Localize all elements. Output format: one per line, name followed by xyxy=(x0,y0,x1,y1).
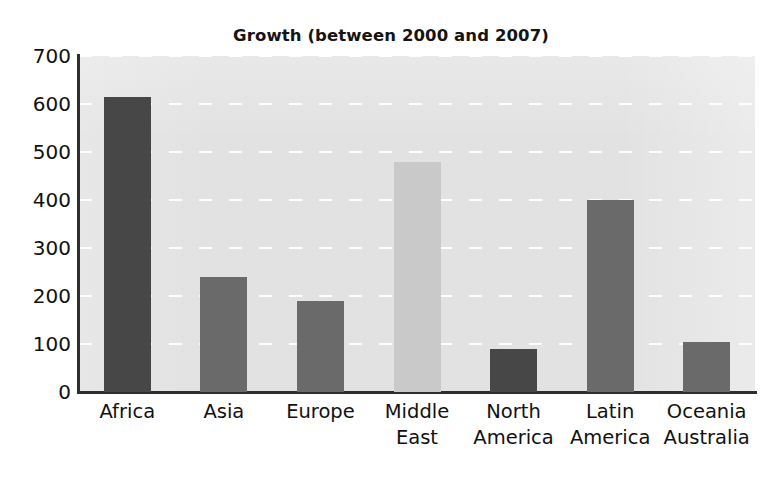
y-axis-tick-labels: 0100200300400500600700 xyxy=(0,56,71,392)
bar xyxy=(297,301,344,392)
bar xyxy=(200,277,247,392)
growth-bar-chart: Growth (between 2000 and 2007) 010020030… xyxy=(0,0,782,489)
bar xyxy=(394,162,441,392)
chart-title: Growth (between 2000 and 2007) xyxy=(0,26,782,45)
bar xyxy=(104,97,151,392)
y-axis-tick-label: 400 xyxy=(5,188,71,212)
y-axis-tick-label: 100 xyxy=(5,332,71,356)
y-axis-tick-label: 300 xyxy=(5,236,71,260)
y-axis-tick-label: 200 xyxy=(5,284,71,308)
bar xyxy=(683,342,730,392)
x-axis-category-labels: AfricaAsiaEuropeMiddle EastNorth America… xyxy=(79,399,755,479)
x-axis-category-label: Oceania Australia xyxy=(650,399,763,451)
y-axis-tick-label: 0 xyxy=(5,380,71,404)
y-axis-tick-label: 700 xyxy=(5,44,71,68)
bar xyxy=(490,349,537,392)
y-axis-tick-label: 600 xyxy=(5,92,71,116)
bar xyxy=(587,200,634,392)
bar-series xyxy=(79,56,755,392)
y-axis-tick-label: 500 xyxy=(5,140,71,164)
